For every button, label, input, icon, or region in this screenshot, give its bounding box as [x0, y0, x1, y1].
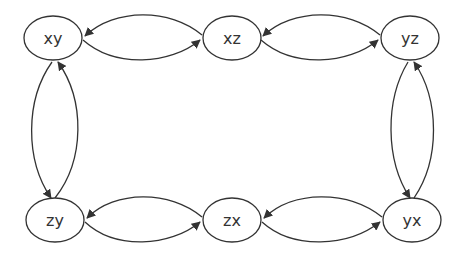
edge-yx-to-zx — [264, 197, 382, 218]
node-label: zy — [46, 211, 64, 230]
node-label: yz — [401, 29, 419, 48]
edge-zx-to-zy — [87, 197, 202, 218]
node-label: xz — [223, 29, 241, 48]
node-zx: zx — [203, 198, 261, 242]
graph-canvas: xy xz yz zy zx yx — [0, 0, 463, 256]
edge-yx-to-yz — [414, 62, 434, 198]
edge-zy-to-zx — [85, 222, 200, 242]
edge-xy-to-zy — [32, 62, 52, 198]
edge-yz-to-yx — [391, 62, 410, 198]
node-zy: zy — [26, 198, 84, 242]
edge-xz-to-xy — [85, 15, 202, 36]
node-yz: yz — [381, 16, 439, 60]
node-xy: xy — [24, 16, 82, 60]
edge-yz-to-xz — [263, 15, 380, 36]
node-label: zx — [223, 211, 241, 230]
node-xz: xz — [203, 16, 261, 60]
edge-zy-to-xy — [55, 62, 78, 198]
node-label: yx — [403, 211, 422, 230]
edge-xz-to-yz — [261, 40, 378, 60]
node-yx: yx — [383, 198, 441, 242]
edge-zx-to-yx — [262, 222, 380, 242]
node-label: xy — [44, 29, 63, 48]
edge-xy-to-xz — [83, 40, 200, 60]
